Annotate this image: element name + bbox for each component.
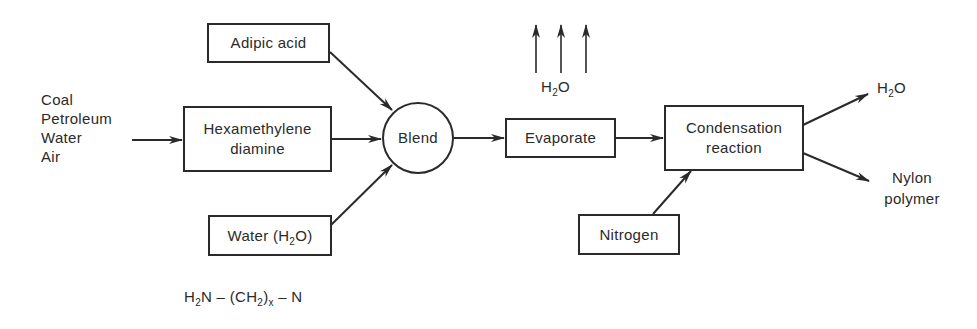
arrow-condensation-to-water: [803, 94, 868, 125]
raw-material-water: Water: [41, 128, 112, 147]
node-nitrogen-label: Nitrogen: [599, 225, 658, 245]
node-condensation-line1: Condensation: [686, 118, 782, 138]
node-blend-label: Blend: [398, 128, 438, 148]
diamine-formula: H2N – (CH2)x – N: [184, 287, 303, 307]
node-adipic-acid: Adipic acid: [207, 23, 330, 63]
arrow-condensation-to-nylon: [803, 153, 869, 181]
raw-material-air: Air: [41, 147, 112, 166]
node-evaporate-label: Evaporate: [525, 128, 596, 148]
node-evaporate: Evaporate: [505, 118, 616, 158]
node-condensation-reaction: Condensation reaction: [664, 105, 804, 171]
raw-materials-list: Coal Petroleum Water Air: [41, 90, 112, 166]
node-water: Water (H2O): [208, 215, 332, 256]
output-nylon-polymer-label: Nylon polymer: [877, 167, 947, 209]
arrow-adipic-to-blend: [330, 52, 392, 110]
node-hexamethylene-diamine: Hexamethylene diamine: [183, 106, 332, 172]
node-hexamethylene-line1: Hexamethylene: [203, 119, 311, 139]
raw-material-coal: Coal: [41, 90, 112, 109]
node-water-label: Water (H2O): [228, 226, 313, 246]
node-condensation-line2: reaction: [706, 138, 762, 158]
node-hexamethylene-line2: diamine: [230, 139, 285, 159]
node-nitrogen: Nitrogen: [578, 214, 680, 255]
arrow-nitrogen-to-condensation: [653, 171, 691, 214]
raw-material-petroleum: Petroleum: [41, 109, 112, 128]
vapor-h2o-label: H2O: [541, 77, 570, 97]
output-h2o-label: H2O: [877, 78, 906, 98]
node-adipic-acid-label: Adipic acid: [231, 33, 307, 53]
arrow-water-to-blend: [331, 165, 392, 225]
flow-connectors: [0, 0, 977, 329]
node-blend: Blend: [382, 102, 454, 174]
